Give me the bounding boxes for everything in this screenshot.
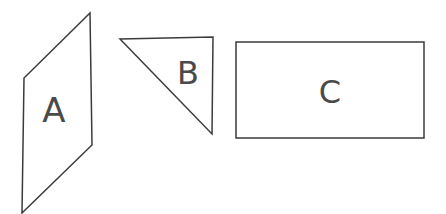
shape-label-b: B <box>177 54 199 92</box>
shapes-figure: A B C <box>0 0 446 214</box>
shape-triangle-b[interactable] <box>120 37 213 134</box>
shape-label-c: C <box>319 73 341 111</box>
shape-label-a: A <box>42 90 65 130</box>
shapes-canvas: A B C <box>0 0 446 214</box>
